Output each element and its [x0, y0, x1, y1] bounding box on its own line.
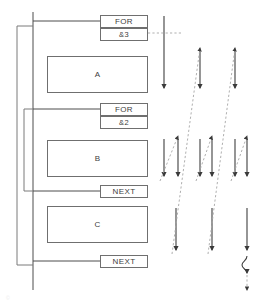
return-arrow-d3 — [231, 136, 247, 181]
block-label: C — [94, 220, 100, 229]
block-for-inner: FOR — [100, 103, 148, 116]
block-label: FOR — [115, 17, 133, 26]
block-label: &2 — [119, 118, 129, 127]
block-label: FOR — [115, 105, 133, 114]
block-label: &3 — [119, 30, 129, 39]
inner-loop-bracket — [24, 109, 33, 191]
block-label: NEXT — [113, 257, 136, 266]
return-arrow-d4 — [172, 48, 200, 254]
block-next-inner: NEXT — [100, 185, 148, 198]
block-body-a: A — [47, 56, 148, 93]
block-for-inner-count: &2 — [100, 116, 148, 129]
block-body-b: B — [47, 140, 148, 177]
outer-loop-bracket — [17, 26, 33, 265]
diagram-canvas: FOR&3AFOR&2BNEXTCNEXT © — [0, 0, 268, 303]
block-label: A — [95, 70, 101, 79]
watermark: © — [6, 295, 10, 301]
block-for-outer: FOR — [100, 15, 148, 28]
block-for-outer-count: &3 — [100, 28, 148, 41]
block-next-outer: NEXT — [100, 255, 148, 268]
return-arrow-d2 — [196, 136, 212, 181]
block-label: B — [95, 154, 101, 163]
block-body-c: C — [47, 206, 148, 243]
return-arrow-d1 — [160, 136, 178, 181]
break-symbol-curve — [242, 256, 247, 273]
block-label: NEXT — [113, 187, 136, 196]
